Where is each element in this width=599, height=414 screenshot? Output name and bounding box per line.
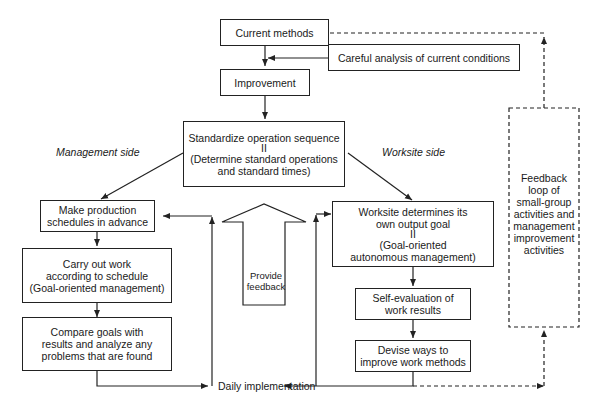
node-text: Make production: [59, 204, 137, 216]
node-text: management: [509, 220, 579, 232]
node-text: Worksite determines its: [359, 206, 468, 218]
management-side-label: Management side: [56, 146, 139, 158]
carry-out-work-box: Carry out work according to schedule (Go…: [22, 248, 172, 303]
careful-analysis-box: Careful analysis of current conditions: [328, 44, 520, 71]
provide-feedback-text: Provide feedback: [243, 270, 289, 292]
node-text: (Determine standard operations: [190, 153, 338, 165]
node-text: problems that are found: [42, 350, 153, 362]
node-text: loop of: [509, 184, 579, 196]
node-text: activities and: [509, 208, 579, 220]
devise-ways-box: Devise ways to improve work methods: [355, 340, 471, 372]
node-text: schedules in advance: [47, 216, 148, 228]
current-methods-box: Current methods: [220, 19, 329, 46]
node-text: autonomous management): [350, 251, 476, 263]
node-text: Devise ways to: [378, 344, 449, 356]
worksite-side-label: Worksite side: [382, 146, 445, 158]
node-text: (Goal-oriented: [379, 239, 446, 251]
node-text: Compare goals with: [51, 326, 144, 338]
standardize-box: Standardize operation sequence II (Deter…: [183, 121, 345, 187]
node-text: improvement: [509, 232, 579, 244]
node-text: Improvement: [234, 77, 295, 89]
node-text: Carry out work: [63, 258, 131, 270]
node-text: Self-evaluation of: [372, 292, 453, 304]
node-text: results and analyze any: [42, 338, 152, 350]
node-text: Careful analysis of current conditions: [338, 52, 510, 64]
node-text: Feedback: [509, 172, 579, 184]
node-text: activities: [509, 244, 579, 256]
node-text: improve work methods: [360, 356, 466, 368]
node-text: Provide: [243, 270, 289, 281]
self-evaluation-box: Self-evaluation of work results: [355, 288, 471, 320]
node-text: II: [410, 230, 416, 239]
improvement-box: Improvement: [220, 69, 310, 96]
feedback-loop-text: Feedback loop of small-group activities …: [509, 172, 579, 256]
daily-implementation-label: Daily implementation: [218, 380, 315, 392]
node-text: II: [261, 144, 267, 153]
node-text: small-group: [509, 196, 579, 208]
make-schedules-box: Make production schedules in advance: [40, 200, 155, 232]
compare-goals-box: Compare goals with results and analyze a…: [22, 317, 172, 371]
node-text: feedback: [243, 281, 289, 292]
node-text: and standard times): [218, 165, 311, 177]
node-text: work results: [385, 304, 441, 316]
node-text: Current methods: [235, 27, 313, 39]
node-text: according to schedule: [46, 270, 148, 282]
node-text: (Goal-oriented management): [30, 282, 165, 294]
worksite-goal-box: Worksite determines its own output goal …: [332, 201, 494, 267]
